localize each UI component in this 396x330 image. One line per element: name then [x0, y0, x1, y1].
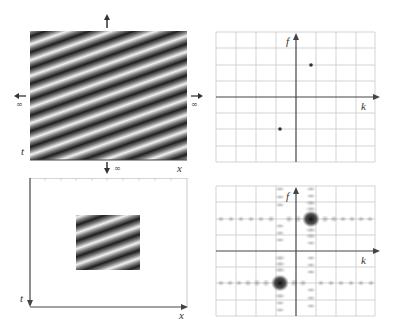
t-axis-label: t	[20, 292, 24, 304]
x-axis-label: x	[176, 162, 182, 174]
infinity-right-label: ∞	[191, 100, 198, 109]
blob-negative	[271, 275, 289, 292]
k-axis	[216, 94, 380, 100]
delta-point-negative	[278, 127, 282, 131]
fourier-blobs-svg: f k	[205, 178, 396, 330]
arrow-right-icon	[191, 93, 203, 99]
k-axis	[216, 248, 380, 254]
grating-patch	[76, 215, 140, 270]
infinite-grating-svg: ∞ ∞ ∞ t x	[0, 0, 205, 178]
arrow-down-icon	[104, 162, 110, 174]
f-axis-label: f	[286, 35, 291, 47]
f-axis-label: f	[286, 190, 291, 202]
infinite-grating-panel: ∞ ∞ ∞ t x	[0, 0, 205, 178]
k-axis-label: k	[361, 100, 367, 112]
x-axis-label: x	[178, 309, 184, 321]
t-axis	[27, 178, 33, 307]
infinity-bottom-label: ∞	[114, 164, 121, 173]
t-axis-label: t	[21, 145, 25, 157]
arrow-left-icon	[14, 93, 26, 99]
infinity-left-label: ∞	[16, 100, 23, 109]
arrow-up-icon	[104, 14, 110, 28]
frame-ticks	[45, 178, 171, 181]
grating-stripes	[30, 31, 187, 160]
x-axis	[30, 304, 188, 310]
windowed-grating-svg: t x	[0, 178, 205, 330]
windowed-grating-panel: t x	[0, 178, 205, 330]
blob-positive	[302, 211, 320, 228]
fourier-blobs-panel: f k	[205, 178, 396, 330]
fourier-points-svg: f k	[205, 0, 396, 178]
fourier-points-panel: f k	[205, 0, 396, 178]
delta-point-positive	[309, 63, 313, 67]
k-axis-label: k	[361, 254, 367, 266]
